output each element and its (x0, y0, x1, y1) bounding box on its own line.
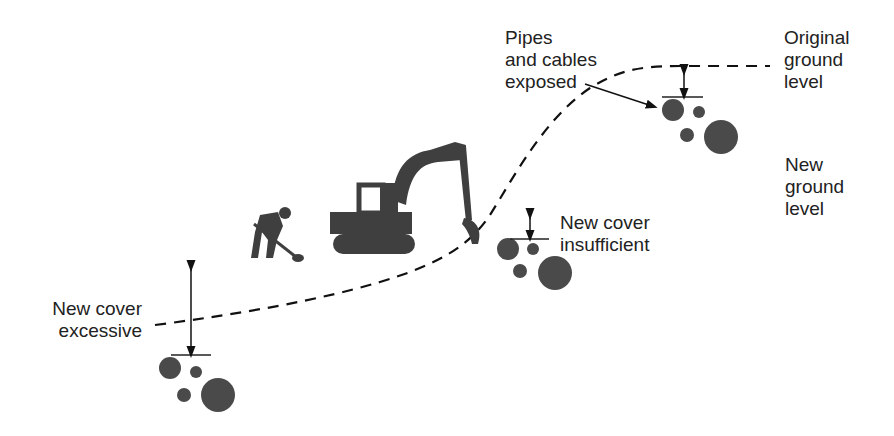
label-new-cover-excessive: New cover excessive (20, 298, 142, 342)
label-new-cover-insufficient: New cover insufficient (560, 212, 650, 256)
label-original-ground-level: Original ground level (784, 27, 849, 93)
pipes-exposed-group (662, 99, 738, 154)
worker-icon (251, 207, 304, 262)
new-ground-area (150, 180, 776, 415)
diagram-canvas (0, 0, 894, 436)
label-new-ground-level: New ground level (785, 154, 844, 220)
label-pipes-exposed: Pipes and cables exposed (505, 27, 597, 93)
